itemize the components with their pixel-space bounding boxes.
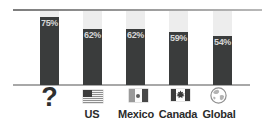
bar-track: 75%	[40, 11, 59, 85]
mexico-flag-emblem	[136, 94, 140, 98]
bar-track: 62%	[126, 11, 145, 85]
question-mark-icon: ?	[40, 84, 59, 111]
bar-value-label: 62%	[83, 29, 102, 40]
us-flag-icon	[83, 90, 103, 103]
category-label-global: Global	[189, 108, 249, 120]
bar: 62%	[126, 29, 145, 85]
bar-track: 54%	[213, 11, 232, 85]
canada-flag-icon	[171, 89, 190, 101]
bar: 59%	[169, 32, 188, 85]
bar-track: 62%	[83, 11, 102, 85]
bar: 75%	[40, 17, 59, 85]
mexico-flag-icon	[129, 89, 148, 102]
bar: 54%	[213, 36, 232, 85]
bar-value-label: 59%	[169, 32, 188, 43]
globe-icon	[210, 87, 227, 104]
bar-value-label: 54%	[213, 36, 232, 47]
us-flag-canton	[83, 90, 92, 97]
bar-chart: 75% 62% 62% 59% 54% ?	[0, 0, 266, 132]
bar: 62%	[83, 29, 102, 85]
bar-value-label: 75%	[40, 17, 59, 28]
maple-leaf-icon	[176, 89, 185, 101]
bar-value-label: 62%	[126, 29, 145, 40]
bar-track: 59%	[169, 11, 188, 85]
